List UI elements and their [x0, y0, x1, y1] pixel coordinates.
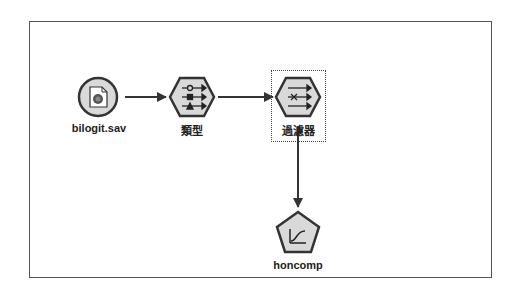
statistics-file-icon — [77, 76, 119, 118]
stream-links — [0, 0, 517, 297]
filter-icon — [274, 76, 322, 118]
node-label-type: 類型 — [181, 122, 203, 138]
type-icon — [168, 76, 216, 118]
node-bilogit-sav[interactable] — [77, 76, 119, 118]
logistic-model-icon — [275, 210, 321, 254]
node-filter[interactable] — [274, 76, 322, 118]
node-honcomp[interactable] — [275, 210, 321, 254]
node-label-honcomp: honcomp — [273, 259, 323, 271]
node-label-filter: 過濾器 — [282, 122, 315, 138]
node-type[interactable] — [168, 76, 216, 118]
node-label-bilogit-sav: bilogit.sav — [72, 122, 126, 134]
